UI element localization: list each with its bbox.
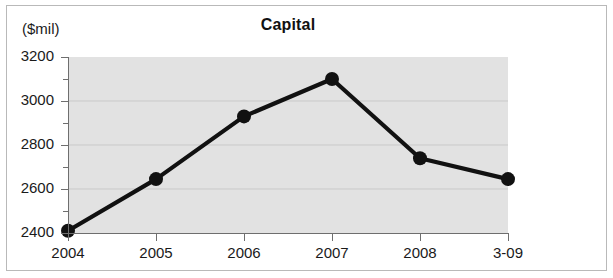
x-axis-tick	[244, 234, 245, 241]
x-axis-tick-label: 2004	[28, 244, 108, 261]
x-axis-tick-label: 3-09	[468, 244, 548, 261]
y-axis-major-tick	[61, 189, 69, 190]
chart-title: Capital	[68, 16, 508, 34]
y-axis-major-tick	[61, 145, 69, 146]
capital-line-chart-figure: Capital ($mil) 24002600280030003200 2004…	[0, 0, 613, 278]
y-axis-unit-label: ($mil)	[22, 20, 60, 37]
y-axis-major-tick	[61, 57, 69, 58]
x-axis-tick	[68, 234, 69, 241]
gridlines-group	[68, 101, 508, 189]
x-axis-tick	[156, 234, 157, 241]
y-axis-minor-tick	[63, 79, 69, 80]
y-axis-minor-tick	[63, 167, 69, 168]
data-point-marker	[325, 72, 339, 86]
data-point-marker	[237, 109, 251, 123]
y-axis-tick-label: 2600	[2, 179, 54, 196]
plot-area	[68, 57, 508, 233]
data-point-marker	[149, 172, 163, 186]
y-axis-minor-tick	[63, 211, 69, 212]
y-axis-tick-label: 2400	[2, 223, 54, 240]
x-axis-tick-label: 2006	[204, 244, 284, 261]
y-axis-tick-label: 3200	[2, 47, 54, 64]
data-point-marker	[501, 172, 515, 186]
plot-svg	[68, 57, 508, 233]
x-axis-tick-label: 2008	[380, 244, 460, 261]
data-point-marker	[413, 151, 427, 165]
x-axis-tick-label: 2005	[116, 244, 196, 261]
x-axis-line	[68, 233, 509, 234]
y-axis-major-tick	[61, 101, 69, 102]
y-axis-tick-label: 2800	[2, 135, 54, 152]
x-axis-tick	[508, 234, 509, 241]
x-axis-tick	[332, 234, 333, 241]
capital-series-line	[68, 79, 508, 231]
y-axis-tick-label: 3000	[2, 91, 54, 108]
x-axis-tick-label: 2007	[292, 244, 372, 261]
y-axis-minor-tick	[63, 123, 69, 124]
x-axis-tick	[420, 234, 421, 241]
